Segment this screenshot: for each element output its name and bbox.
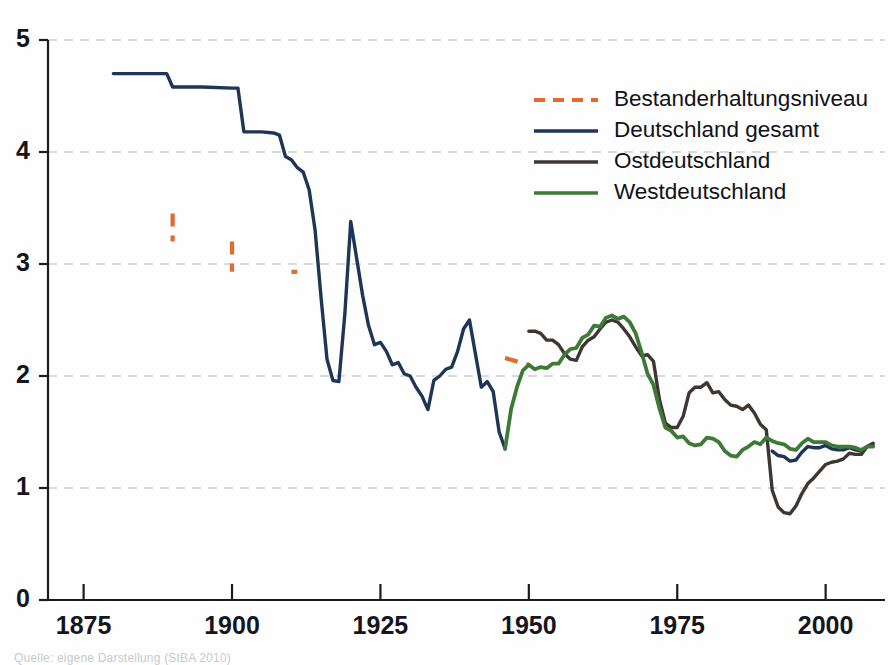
x-tick-label-1875: 1875: [56, 611, 112, 639]
legend-label-bestanderhaltungsniveau: Bestanderhaltungsniveau: [614, 86, 868, 111]
chart-legend: BestanderhaltungsniveauDeutschland gesam…: [534, 86, 868, 204]
series-line-deutschland-gesamt-seg2: [113, 74, 505, 449]
y-tick-label-0: 0: [16, 584, 30, 612]
series-line-ostdeutschland: [529, 320, 873, 514]
legend-label-westdeutschland: Westdeutschland: [614, 179, 786, 204]
y-tick-label-3: 3: [16, 248, 30, 276]
y-tick-label-1: 1: [16, 472, 30, 500]
x-tick-label-1950: 1950: [501, 611, 557, 639]
legend-label-deutschland-gesamt: Deutschland gesamt: [614, 117, 820, 142]
x-tick-label-1975: 1975: [649, 611, 705, 639]
series-line-bestanderhaltungsniveau-seg8: [505, 358, 529, 365]
legend-label-ostdeutschland: Ostdeutschland: [614, 148, 770, 173]
x-tick-label-1900: 1900: [204, 611, 260, 639]
x-tick-label-1925: 1925: [353, 611, 409, 639]
series-line-westdeutschland: [505, 316, 873, 457]
y-tick-label-2: 2: [16, 360, 30, 388]
y-tick-label-5: 5: [16, 24, 30, 52]
y-tick-label-4: 4: [16, 136, 30, 164]
figure-source-caption: Quelle: eigene Darstellung (StBA 2010): [14, 651, 231, 665]
x-tick-label-2000: 2000: [798, 611, 854, 639]
